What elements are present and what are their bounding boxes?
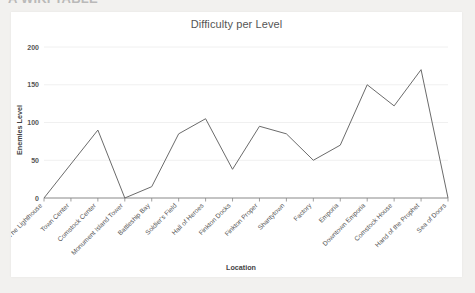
series-line-enemies-level — [44, 70, 448, 198]
chart-card: Difficulty per Level 050100150200 The Li… — [11, 12, 462, 277]
x-axis-tick-label: Monument Island Tower — [70, 201, 125, 256]
x-axis-tick-label: Shantytown — [256, 202, 286, 232]
x-axis-tick-label: Sea of Doors — [415, 201, 448, 234]
x-axis — [44, 198, 448, 202]
y-axis-tick-label: 100 — [27, 119, 39, 126]
x-axis-tick-label: The Lighthouse — [11, 202, 44, 240]
gridlines — [44, 47, 448, 160]
y-axis-tick-label: 50 — [31, 157, 39, 164]
x-axis-tick-label: Factory — [292, 201, 314, 223]
y-axis-tick-label: 0 — [35, 195, 39, 202]
difficulty-per-level-line-chart: 050100150200 The LighthouseTown CenterCo… — [11, 12, 462, 277]
x-axis-tick-labels: The LighthouseTown CenterComstock Center… — [11, 201, 448, 256]
x-axis-tick-label: Emporia — [317, 202, 340, 225]
data-series — [44, 70, 448, 198]
y-axis-tick-label: 200 — [27, 44, 39, 51]
x-axis-title: Location — [226, 263, 256, 272]
page-heading-clipped: A WIKI TABLE — [8, 0, 98, 7]
y-axis-tick-label: 150 — [27, 81, 39, 88]
y-axis-title: Enemies Level — [15, 105, 24, 155]
y-axis-tick-labels: 050100150200 — [27, 44, 39, 202]
